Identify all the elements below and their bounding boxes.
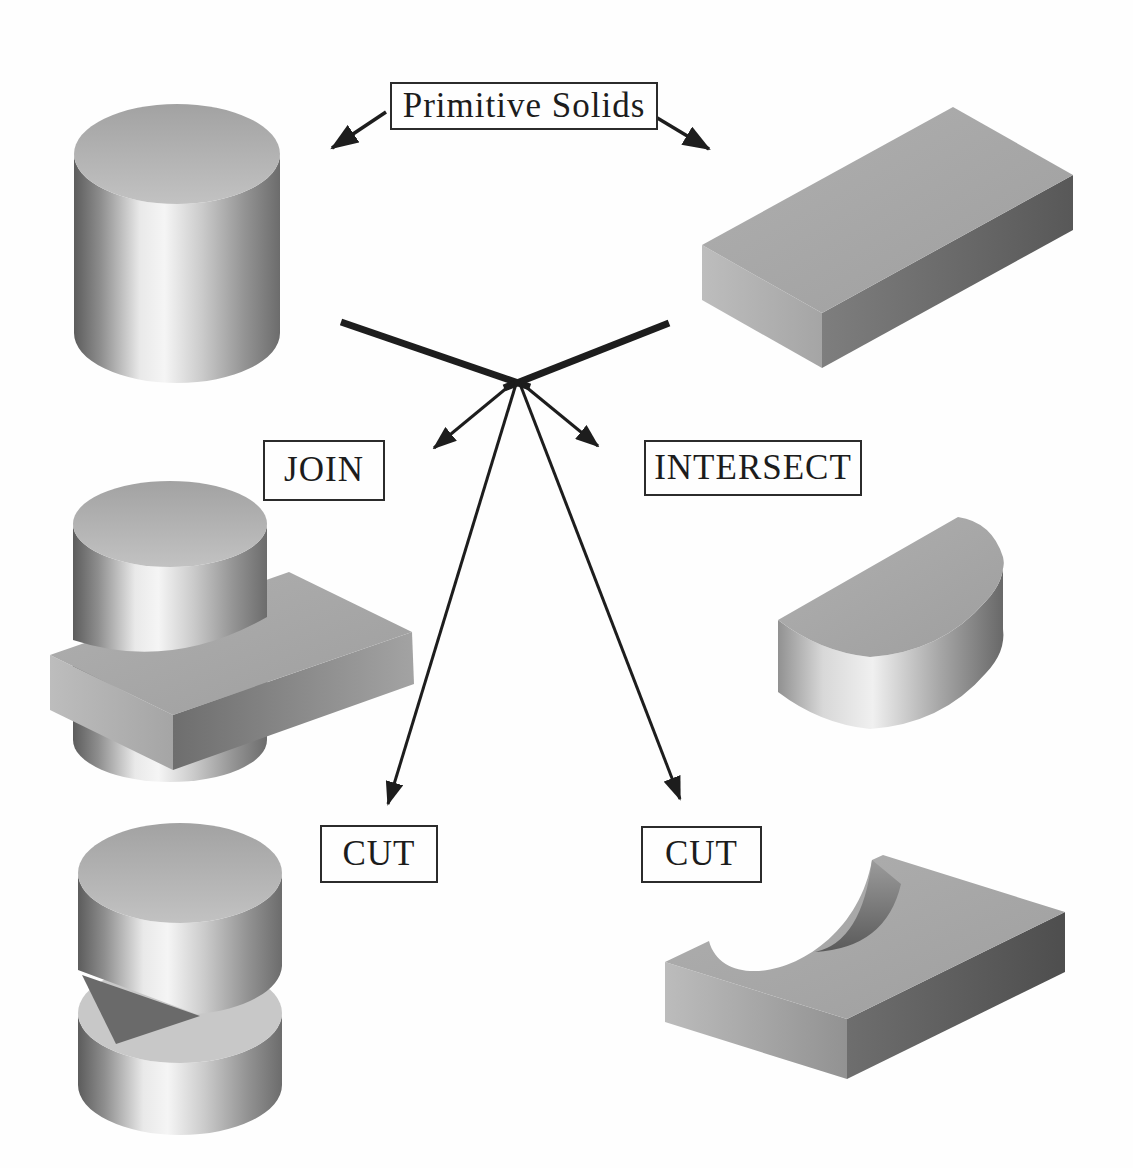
primitive-solids-label-box: Primitive Solids xyxy=(390,82,658,130)
cut-left-label-box: CUT xyxy=(320,825,438,883)
join-result-solid xyxy=(50,481,414,782)
arrow-to-cylinder xyxy=(332,112,386,148)
converge-line-left xyxy=(341,322,530,387)
cut-cylinder-result-solid xyxy=(78,823,282,1135)
cut-block-result-solid xyxy=(665,855,1065,1079)
join-label-box: JOIN xyxy=(263,440,385,501)
converge-line-right xyxy=(504,323,669,388)
primitive-cylinder-solid xyxy=(74,104,280,383)
primitive-block-solid xyxy=(702,107,1073,368)
intersect-result-solid xyxy=(778,517,1003,729)
intersect-label-box: INTERSECT xyxy=(644,440,862,496)
arrow-to-block xyxy=(654,116,709,149)
arrow-to-cut-left xyxy=(388,384,516,804)
diagram-canvas xyxy=(0,0,1133,1168)
arrow-to-join xyxy=(434,382,514,448)
cut-right-label-box: CUT xyxy=(641,826,762,883)
csg-diagram-page: Primitive Solids JOIN INTERSECT CUT CUT xyxy=(0,0,1133,1168)
